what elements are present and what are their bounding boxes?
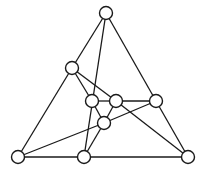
node-left-upper (66, 62, 79, 75)
node-bottom-mid (78, 151, 91, 164)
node-inner-left (86, 95, 99, 108)
edge-top-left-upper (72, 13, 106, 68)
edge-top-right (106, 13, 156, 101)
node-bottom-left (12, 151, 25, 164)
edge-right-bottom-right (156, 101, 188, 157)
node-center-lower (98, 117, 111, 130)
graph-diagram (0, 0, 204, 172)
edges-layer (18, 13, 188, 157)
node-top (100, 7, 113, 20)
node-inner-right (110, 95, 123, 108)
edge-inner-right-bottom-right (116, 101, 188, 157)
node-bottom-right (182, 151, 195, 164)
node-right (150, 95, 163, 108)
edge-left-upper-bottom-left (18, 68, 72, 157)
edge-bottom-left-center-lower (18, 123, 104, 157)
